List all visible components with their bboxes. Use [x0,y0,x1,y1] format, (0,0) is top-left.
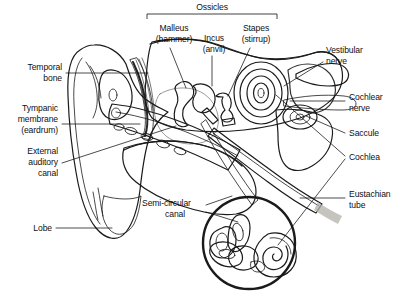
label-vestibular-line2: nerve [326,56,347,66]
label-cochlea: Cochlea [349,152,380,162]
label-tympanic-line2: membrane [18,114,59,124]
ear-anatomy-figure: Ossicles Malleus (hammer) Incus (anvil) … [0,0,401,294]
label-semicircular-line2: canal [165,209,185,219]
label-saccule: Saccule [349,128,379,138]
label-malleus-line2: (hammer) [156,34,193,44]
label-stapes-line2: (stirrup) [242,34,271,44]
label-stapes-line1: Stapes [243,23,269,33]
label-eustachian-line1: Eustachian [349,189,391,199]
label-lobe: Lobe [33,223,52,233]
label-malleus-line1: Malleus [160,23,189,33]
label-temporal-line1: Temporal [27,62,62,72]
label-cochlear-line1: Cochlear [349,92,383,102]
label-external-line3: canal [38,168,58,178]
label-temporal-line2: bone [43,73,62,83]
label-external-line1: External [27,146,58,156]
label-incus-line2: (anvil) [203,44,226,54]
label-cochlear-line2: nerve [349,103,370,113]
label-semicircular-line1: Semi-circular [142,198,191,208]
label-eustachian-line2: tube [349,200,366,210]
label-vestibular-line1: Vestibular [326,45,363,55]
label-ossicles: Ossicles [196,2,228,12]
label-external-line2: auditory [28,157,59,167]
label-incus-line1: Incus [204,33,224,43]
label-tympanic-line1: Tympanic [22,103,59,113]
ear-diagram-canvas: Ossicles Malleus (hammer) Incus (anvil) … [0,0,401,294]
label-tympanic-line3: (eardrum) [21,125,58,135]
